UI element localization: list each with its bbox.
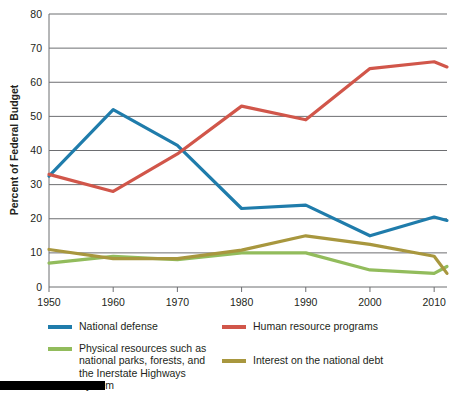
chart-figure: 01020304050607080 1950196019701980199020… (0, 0, 460, 396)
y-tick-label: 80 (30, 8, 42, 20)
legend-swatch-icon-0 (48, 325, 72, 329)
y-tick-label: 40 (30, 144, 42, 156)
series-line-0 (49, 110, 447, 236)
y-tick-label: 70 (30, 42, 42, 54)
x-tick-label: 1950 (37, 296, 61, 308)
y-tick-label: 30 (30, 178, 42, 190)
legend-column-right: Human resource programs Interest on the … (222, 320, 452, 375)
series-line-2 (49, 253, 447, 273)
line-chart-plot: 01020304050607080 1950196019701980199020… (0, 0, 460, 316)
x-tick-label: 1980 (230, 296, 254, 308)
y-tick-label: 0 (36, 281, 42, 293)
legend-label-1: Human resource programs (253, 320, 378, 333)
legend-swatch-icon-2 (48, 347, 72, 351)
x-tick-label: 2000 (358, 296, 382, 308)
chart-svg: 01020304050607080 1950196019701980199020… (0, 0, 460, 316)
x-tick-label: 1970 (166, 296, 190, 308)
x-tick-label: 1990 (294, 296, 318, 308)
y-tick-label: 20 (30, 212, 42, 224)
legend-swatch-icon-1 (222, 325, 246, 329)
legend-swatch-icon-3 (222, 359, 246, 363)
legend-item-national-defense[interactable]: National defense (48, 320, 223, 333)
x-tick-label: 1960 (102, 296, 126, 308)
legend-label-0: National defense (79, 320, 158, 333)
data-series-group (49, 62, 447, 274)
y-tick-label: 10 (30, 246, 42, 258)
y-tick-label: 50 (30, 110, 42, 122)
x-tick-labels-group: 1950196019701980199020002010 (37, 296, 446, 308)
y-tick-label: 60 (30, 76, 42, 88)
chart-legend: National defense Physical resources such… (0, 312, 460, 382)
series-line-1 (49, 62, 447, 192)
y-tick-labels-group: 01020304050607080 (30, 8, 42, 293)
legend-item-human-resource-programs[interactable]: Human resource programs (222, 320, 452, 333)
bottom-black-bar (0, 381, 105, 390)
series-line-3 (49, 236, 447, 274)
x-tick-label: 2010 (422, 296, 446, 308)
legend-label-3: Interest on the national debt (253, 354, 383, 367)
y-axis-title: Percent of Federal Budget (8, 84, 20, 215)
legend-item-interest-national-debt[interactable]: Interest on the national debt (222, 354, 452, 367)
